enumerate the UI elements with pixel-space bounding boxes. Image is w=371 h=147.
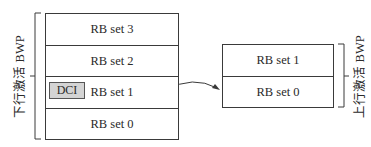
- rb-set-2-row: RB set 2: [46, 45, 178, 76]
- rb-set-label: RB set 1: [256, 53, 299, 68]
- rb-set-0-row: RB set 0: [223, 76, 333, 108]
- rb-set-label: RB set 2: [90, 54, 133, 69]
- rb-set-label: RB set 0: [90, 117, 133, 132]
- downlink-brace: [30, 13, 41, 139]
- uplink-bwp-label: 上行激活 BWP: [349, 38, 368, 118]
- rb-set-1-row: RB set 1: [223, 45, 333, 76]
- rb-set-label: RB set 0: [256, 85, 299, 100]
- downlink-bwp-box: RB set 3 RB set 2 RB set 1 RB set 0 DCI: [45, 13, 179, 140]
- uplink-brace: [338, 44, 349, 107]
- rb-set-0-row: RB set 0: [46, 108, 178, 140]
- dci-box: DCI: [49, 82, 85, 99]
- arrowhead-icon: [212, 84, 220, 90]
- rb-set-label: RB set 1: [90, 85, 133, 100]
- downlink-bwp-label: 下行激活 BWP: [9, 38, 28, 118]
- rb-set-3-row: RB set 3: [46, 14, 178, 45]
- uplink-bwp-box: RB set 1 RB set 0: [222, 44, 334, 108]
- rb-set-label: RB set 3: [90, 22, 133, 37]
